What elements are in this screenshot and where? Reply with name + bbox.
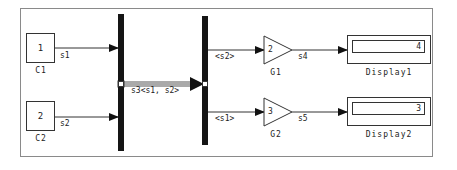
signal-label-s4: s4: [298, 52, 308, 62]
block-name-c2: C2: [30, 134, 52, 144]
mux-output-port-marker: [118, 81, 124, 87]
block-name-g2: G2: [268, 130, 284, 140]
gain-value-g1: 2: [268, 45, 273, 55]
display-value: 3: [416, 104, 421, 114]
gain-value-g2: 3: [268, 107, 273, 117]
block-name-display2: Display2: [347, 130, 431, 140]
signal-label-s1: s1: [60, 51, 70, 61]
display-value: 4: [416, 42, 421, 52]
signal-label-demux-out2: <s1>: [215, 114, 234, 124]
block-name-display1: Display1: [347, 68, 431, 78]
display-readout: 4: [352, 40, 425, 53]
signal-lines: [0, 0, 457, 170]
signal-label-s3: s3<s1, s2>: [131, 86, 179, 96]
diagram-canvas: 1 C1 2 C2 s1 s2 s3<s1, s2> <s2> <s1> s4 …: [0, 0, 457, 170]
constant-block-c1[interactable]: 1: [26, 33, 55, 63]
constant-value: 1: [27, 43, 54, 53]
constant-value: 2: [27, 111, 54, 121]
constant-block-c2[interactable]: 2: [26, 101, 55, 131]
display-block-1[interactable]: 4: [347, 35, 431, 64]
block-name-c1: C1: [30, 66, 52, 76]
display-readout: 3: [352, 102, 425, 115]
demux-input-port-marker: [202, 81, 208, 87]
signal-label-s5: s5: [298, 114, 308, 124]
block-name-g1: G1: [268, 68, 284, 78]
signal-label-demux-out1: <s2>: [215, 52, 234, 62]
display-block-2[interactable]: 3: [347, 97, 431, 126]
signal-label-s2: s2: [60, 119, 70, 129]
